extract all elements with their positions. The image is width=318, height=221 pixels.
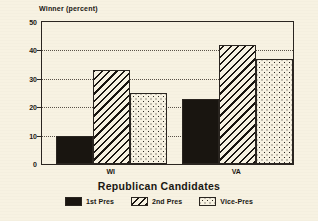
y-axis-tick-label: 20: [29, 104, 37, 111]
bar-layer: [42, 22, 293, 164]
x-axis-tick-label: WI: [106, 168, 115, 175]
y-axis-tick-label: 50: [29, 19, 37, 26]
legend-swatch-icon: [199, 197, 216, 206]
y-axis-tick-mark: [37, 79, 42, 80]
legend-label: 1st Pres: [86, 198, 114, 205]
legend-swatch-icon: [65, 197, 82, 206]
legend-swatch-icon: [131, 197, 148, 206]
x-axis-tick-label: VA: [232, 168, 241, 175]
y-axis-tick-label: 40: [29, 47, 37, 54]
bar: [219, 45, 256, 164]
y-axis-tick-label: 10: [29, 132, 37, 139]
legend-entry: Vice-Pres: [199, 197, 253, 206]
y-axis-tick-mark: [37, 136, 42, 137]
y-axis-tick-label: 30: [29, 75, 37, 82]
legend-label: 2nd Pres: [152, 198, 182, 205]
legend-label: Vice-Pres: [220, 198, 253, 205]
plot-area: 01020304050: [41, 21, 294, 165]
bar: [93, 70, 130, 164]
y-axis-tick-mark: [37, 50, 42, 51]
legend-entry: 2nd Pres: [131, 197, 182, 206]
bar: [130, 93, 167, 164]
bar: [182, 99, 219, 164]
bar-chart-figure: Winner (percent) 01020304050 Republican …: [0, 0, 318, 221]
x-axis-label: Republican Candidates: [0, 180, 318, 192]
bar: [56, 136, 93, 164]
y-axis-tick-label: 0: [33, 161, 37, 168]
y-axis-label: Winner (percent): [39, 5, 98, 12]
y-axis-tick-mark: [37, 107, 42, 108]
chart-legend: 1st Pres2nd PresVice-Pres: [0, 197, 318, 206]
bar: [256, 59, 293, 164]
legend-entry: 1st Pres: [65, 197, 114, 206]
